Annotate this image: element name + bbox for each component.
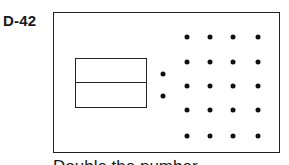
grid-dot: [185, 108, 190, 113]
figure-caption: Double the number: [53, 157, 198, 165]
two-section-rectangle: [75, 58, 147, 108]
grid-dot: [256, 35, 261, 40]
grid-dot: [185, 84, 190, 89]
grid-dot: [256, 134, 261, 139]
rectangle-divider: [76, 82, 146, 83]
middle-dot: [161, 94, 166, 99]
grid-dot: [208, 108, 213, 113]
grid-dot: [185, 60, 190, 65]
grid-dot: [231, 134, 236, 139]
grid-dot: [185, 35, 190, 40]
figure-label: D-42: [3, 12, 36, 29]
grid-dot: [256, 108, 261, 113]
grid-dot: [208, 134, 213, 139]
grid-dot: [231, 60, 236, 65]
grid-dot: [231, 35, 236, 40]
grid-dot: [231, 108, 236, 113]
grid-dot: [185, 134, 190, 139]
grid-dot: [256, 60, 261, 65]
grid-dot: [208, 84, 213, 89]
grid-dot: [231, 84, 236, 89]
grid-dot: [208, 35, 213, 40]
grid-dot: [256, 84, 261, 89]
middle-dot: [161, 72, 166, 77]
grid-dot: [208, 60, 213, 65]
